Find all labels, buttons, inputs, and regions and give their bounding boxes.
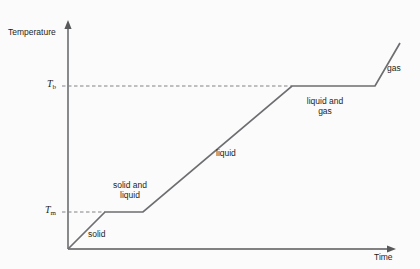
y-axis (64, 20, 71, 249)
region-label-solid: solid (88, 229, 105, 239)
region-label-gas: gas (387, 63, 401, 73)
x-axis-title: Time (374, 252, 393, 262)
tick-label-tb: Tb (47, 78, 56, 91)
x-axis (68, 245, 396, 252)
tb-subscript: b (53, 83, 57, 91)
region-label-solid-and-liquid-line1: solid and (97, 180, 163, 190)
tick-label-tm: Tm (45, 204, 56, 217)
region-label-solid-and-liquid-line2: liquid (97, 190, 163, 200)
region-label-liquid-and-gas-line2: gas (291, 106, 359, 116)
heating-curve-line (68, 43, 400, 249)
heating-curve-figure: Temperature Time Tb Tm solid solid and l… (0, 0, 420, 269)
tm-subscript: m (51, 209, 56, 217)
region-label-liquid-and-gas: liquid and gas (291, 96, 359, 117)
region-label-liquid: liquid (216, 148, 236, 158)
chart-canvas (0, 0, 420, 269)
y-axis-title: Temperature (8, 27, 56, 37)
region-label-liquid-and-gas-line1: liquid and (291, 96, 359, 106)
region-label-solid-and-liquid: solid and liquid (97, 180, 163, 201)
